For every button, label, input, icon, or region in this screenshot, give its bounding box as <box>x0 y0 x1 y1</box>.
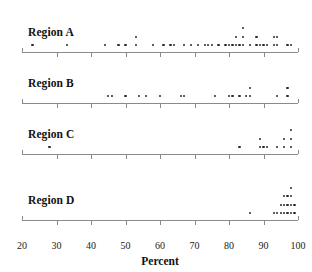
x-axis-end-cap <box>298 150 299 154</box>
data-point <box>290 212 292 214</box>
x-axis-tick <box>160 221 161 225</box>
data-point <box>283 146 285 148</box>
x-axis-tick <box>195 155 196 159</box>
data-point <box>276 36 278 38</box>
data-point <box>290 44 292 46</box>
data-point <box>283 195 285 197</box>
data-point <box>124 95 126 97</box>
data-point <box>169 44 171 46</box>
data-point <box>262 146 264 148</box>
data-point <box>183 44 185 46</box>
data-point <box>276 146 278 148</box>
x-axis-start-cap <box>22 99 23 103</box>
data-point <box>238 95 240 97</box>
data-point <box>207 44 209 46</box>
data-point <box>238 146 240 148</box>
data-point <box>228 95 230 97</box>
x-axis-tick <box>57 221 58 225</box>
data-point <box>286 204 288 206</box>
x-axis-tick <box>126 221 127 225</box>
data-point <box>262 44 264 46</box>
data-point <box>245 95 247 97</box>
panel-label-region-a: Region A <box>28 26 74 38</box>
x-axis-tick <box>57 155 58 159</box>
data-point <box>283 212 285 214</box>
data-point <box>211 44 213 46</box>
x-axis-tick <box>264 104 265 108</box>
data-point <box>276 212 278 214</box>
x-axis-tick <box>264 53 265 57</box>
panel-label-region-b: Region B <box>28 77 74 89</box>
region-panel: Region A <box>0 4 312 66</box>
data-point <box>293 212 295 214</box>
data-point <box>259 44 261 46</box>
x-axis-tick <box>57 104 58 108</box>
x-tick-label: 40 <box>86 240 96 251</box>
data-point <box>290 138 292 140</box>
x-axis-tick <box>160 104 161 108</box>
data-point <box>293 204 295 206</box>
data-point <box>249 87 251 89</box>
data-point <box>286 95 288 97</box>
data-point <box>31 44 33 46</box>
data-point <box>159 95 161 97</box>
data-point <box>238 44 240 46</box>
data-point <box>249 212 251 214</box>
data-point <box>276 95 278 97</box>
data-point <box>235 36 237 38</box>
data-point <box>290 129 292 131</box>
data-point <box>224 44 226 46</box>
data-point <box>283 204 285 206</box>
data-point <box>242 44 244 46</box>
data-point <box>107 95 109 97</box>
data-point <box>135 44 137 46</box>
x-axis-tick <box>160 53 161 57</box>
x-axis-tick <box>91 155 92 159</box>
x-axis-tick <box>91 221 92 225</box>
data-point <box>266 44 268 46</box>
x-axis-tick <box>126 53 127 57</box>
x-tick-label: 90 <box>259 240 269 251</box>
data-point <box>183 95 185 97</box>
data-point <box>242 27 244 29</box>
data-point <box>290 187 292 189</box>
data-point <box>286 44 288 46</box>
data-point <box>249 95 251 97</box>
data-point <box>266 146 268 148</box>
x-tick-label: 30 <box>52 240 62 251</box>
x-axis-start-cap <box>22 150 23 154</box>
data-point <box>276 44 278 46</box>
data-point <box>290 195 292 197</box>
x-axis-tick <box>195 104 196 108</box>
data-point <box>290 204 292 206</box>
region-panel: Region C <box>0 120 312 168</box>
x-tick-label: 60 <box>155 240 165 251</box>
data-point <box>162 44 164 46</box>
data-point <box>117 44 119 46</box>
data-point <box>145 95 147 97</box>
data-point <box>138 95 140 97</box>
data-point <box>66 44 68 46</box>
x-tick-label: 70 <box>190 240 200 251</box>
x-axis-tick <box>195 221 196 225</box>
data-point <box>204 44 206 46</box>
x-axis-tick <box>160 155 161 159</box>
data-point <box>259 138 261 140</box>
x-axis-tick <box>126 104 127 108</box>
data-point <box>286 195 288 197</box>
data-point <box>283 138 285 140</box>
x-axis-tick <box>229 53 230 57</box>
data-point <box>255 36 257 38</box>
data-point <box>180 95 182 97</box>
data-point <box>152 44 154 46</box>
panel-label-region-c: Region C <box>28 128 74 140</box>
data-point <box>190 44 192 46</box>
data-point <box>197 44 199 46</box>
data-point <box>280 204 282 206</box>
data-point <box>124 44 126 46</box>
x-axis-tick <box>229 104 230 108</box>
region-panel: Region D <box>0 170 312 234</box>
x-axis-tick <box>195 53 196 57</box>
x-axis-end-cap <box>298 99 299 103</box>
x-tick-label: 20 <box>17 240 27 251</box>
